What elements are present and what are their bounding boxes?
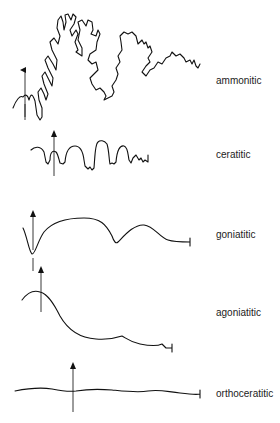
orthoceratitic-suture — [15, 362, 200, 412]
suture-diagram — [0, 0, 280, 423]
agoniatitic-suture — [22, 266, 172, 352]
ceratitic-suture — [31, 130, 148, 176]
goniatitic-suture — [23, 210, 190, 271]
label-ammonitic: ammonitic — [216, 75, 262, 86]
label-orthoceratitic: orthoceratitic — [216, 388, 273, 399]
label-ceratitic: ceratitic — [216, 149, 250, 160]
ammonitic-suture — [13, 14, 200, 120]
label-agoniatitic: agoniatitic — [216, 307, 261, 318]
label-goniatitic: goniatitic — [216, 229, 255, 240]
